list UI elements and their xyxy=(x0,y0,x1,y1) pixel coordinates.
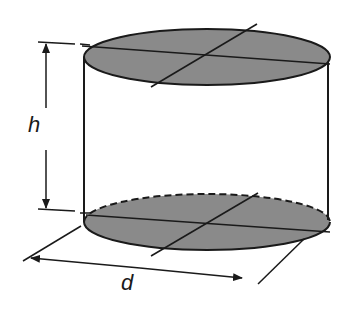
height-label: h xyxy=(28,114,40,136)
height-dimension xyxy=(38,42,90,213)
cylinder-diagram xyxy=(0,0,351,312)
bottom-base xyxy=(84,193,330,256)
diameter-label: d xyxy=(121,272,133,294)
top-base xyxy=(82,24,330,87)
